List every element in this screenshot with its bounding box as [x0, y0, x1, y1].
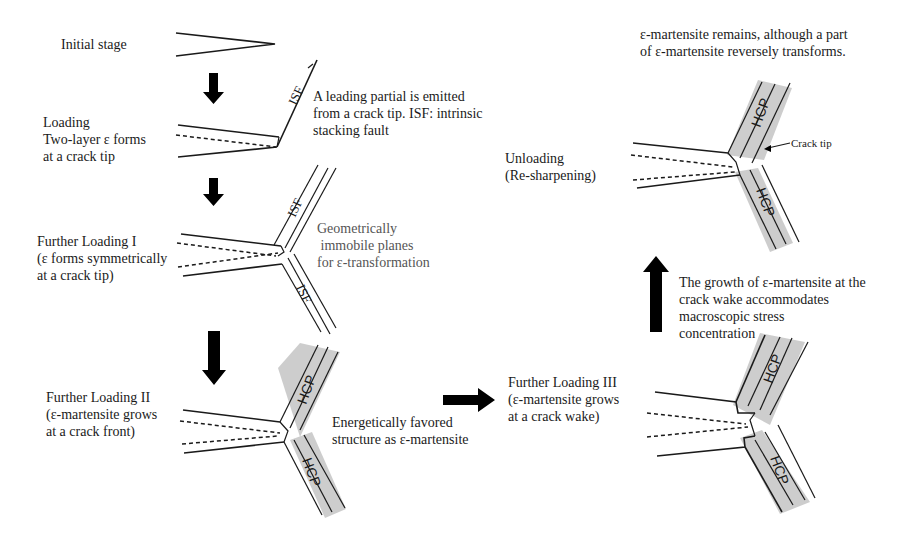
- label-line: A leading partial is emitted: [313, 88, 483, 105]
- stage-label-further-loading-2: Further Loading II (ε-martensite grows a…: [46, 389, 157, 440]
- annotation-energetically-favored: Energetically favored structure as ε-mar…: [332, 414, 469, 448]
- label-line: Geometrically: [317, 220, 430, 237]
- label-line: at a crack tip): [37, 267, 167, 284]
- arrow-up: [643, 256, 669, 332]
- loading-crack: ISF: [176, 60, 317, 157]
- label-line: (ε forms symmetrically: [37, 250, 167, 267]
- label-line: concentration: [679, 325, 866, 342]
- annotation-leading-partial: A leading partial is emitted from a crac…: [313, 88, 483, 139]
- label-line: at a crack wake): [508, 408, 619, 425]
- label-line: Loading: [43, 114, 146, 131]
- stage-label-initial: Initial stage: [61, 36, 127, 53]
- arrow-down-2: [203, 178, 224, 206]
- stage-label-unloading: Unloading (Re-sharpening): [505, 150, 596, 184]
- stage-label-further-loading-3: Further Loading III (ε-martensite grows …: [508, 374, 619, 425]
- stage-label-further-loading-1: Further Loading I (ε forms symmetrically…: [37, 233, 167, 284]
- arrow-down-3: [202, 331, 226, 385]
- svg-text:ISF: ISF: [285, 84, 307, 107]
- unloading-crack: HCP HCP: [631, 80, 799, 252]
- label-line: Unloading: [505, 150, 596, 167]
- label-line: immobile planes: [317, 237, 430, 254]
- label-line: (Re-sharpening): [505, 167, 596, 184]
- label-line: (ε-martensite grows: [508, 391, 619, 408]
- label-line: Initial stage: [61, 36, 127, 53]
- label-line: crack wake accommodates: [679, 291, 866, 308]
- annotation-martensite-remains: ε-martensite remains, although a part of…: [640, 26, 848, 60]
- label-line: ε-martensite remains, although a part: [640, 26, 848, 43]
- label-line: The growth of ε-martensite at the: [679, 274, 866, 291]
- label-line: (ε-martensite grows: [46, 406, 157, 423]
- label-line: Crack tip: [791, 137, 832, 150]
- further-loading-2-crack: HCP HCP: [180, 343, 346, 518]
- arrow-right: [443, 388, 495, 412]
- stage-label-loading: Loading Two-layer ε forms at a crack tip: [43, 114, 146, 165]
- label-line: Energetically favored: [332, 414, 469, 431]
- label-line: stacking fault: [313, 122, 483, 139]
- label-line: of ε-martensite reversely transforms.: [640, 43, 848, 60]
- initial-crack: [176, 33, 275, 56]
- label-line: from a crack tip. ISF: intrinsic: [313, 105, 483, 122]
- further-loading-3-crack: HCP HCP: [647, 333, 815, 514]
- annotation-crack-wake-growth: The growth of ε-martensite at the crack …: [679, 274, 866, 342]
- label-line: Further Loading II: [46, 389, 157, 406]
- label-line: macroscopic stress: [679, 308, 866, 325]
- arrow-down-1: [203, 73, 224, 104]
- label-line: Further Loading I: [37, 233, 167, 250]
- label-line: at a crack front): [46, 423, 157, 440]
- annotation-immobile-planes: Geometrically immobile planes for ε-tran…: [317, 220, 430, 271]
- label-line: Further Loading III: [508, 374, 619, 391]
- annotation-crack-tip: Crack tip: [791, 137, 832, 150]
- label-line: for ε-transformation: [317, 254, 430, 271]
- further-loading-1-crack: ISF ISF: [177, 165, 336, 334]
- label-line: at a crack tip: [43, 148, 146, 165]
- label-line: Two-layer ε forms: [43, 131, 146, 148]
- label-line: structure as ε-martensite: [332, 431, 469, 448]
